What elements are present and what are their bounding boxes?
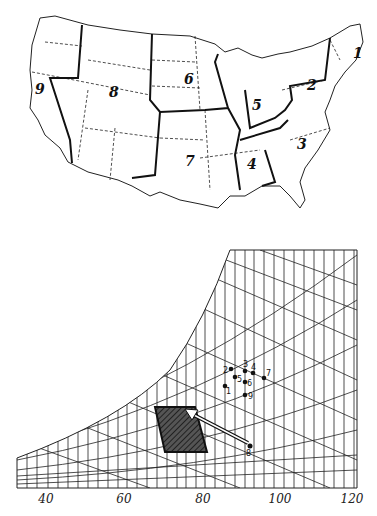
x-tick-60: 60 — [116, 492, 131, 506]
region-label-3: 3 — [297, 136, 307, 152]
svg-text:3: 3 — [243, 360, 248, 369]
svg-text:4: 4 — [251, 363, 256, 372]
svg-text:8: 8 — [246, 449, 251, 458]
comfort-zone — [155, 407, 207, 452]
region-label-8: 8 — [109, 84, 119, 100]
region-label-2: 2 — [306, 77, 317, 93]
region-label-1: 1 — [353, 45, 363, 61]
x-tick-120: 120 — [341, 492, 364, 506]
psychrometric-chart: 234 567 198 — [0, 230, 377, 516]
region-label-7: 7 — [185, 153, 195, 169]
svg-text:2: 2 — [223, 366, 228, 375]
svg-text:6: 6 — [247, 379, 252, 388]
x-tick-40: 40 — [38, 492, 53, 506]
svg-text:1: 1 — [226, 387, 231, 396]
region-label-4: 4 — [247, 156, 257, 172]
svg-text:5: 5 — [237, 375, 242, 384]
svg-text:9: 9 — [248, 392, 253, 401]
x-tick-100: 100 — [269, 492, 292, 506]
x-tick-80: 80 — [195, 492, 210, 506]
region-label-5: 5 — [252, 97, 262, 113]
data-points — [223, 367, 267, 449]
region-label-9: 9 — [35, 81, 45, 97]
svg-text:7: 7 — [266, 369, 271, 378]
region-label-6: 6 — [184, 71, 194, 87]
us-climate-regions-map: 1 2 3 4 5 6 7 8 9 — [0, 0, 377, 210]
